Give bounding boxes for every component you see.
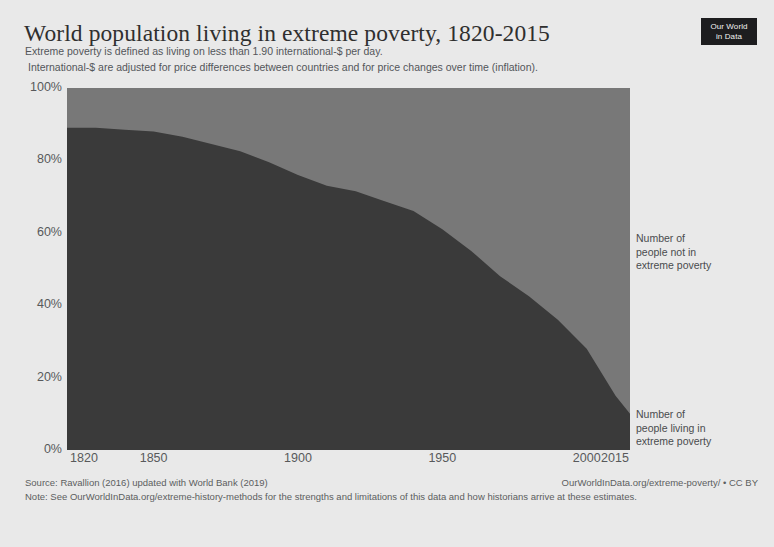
our-world-in-data-logo[interactable]: Our World in Data (701, 18, 757, 45)
x-axis-tick-1900: 1900 (284, 451, 312, 465)
y-axis-tick-80: 80% (14, 152, 62, 166)
annotation-line-2: people not in (636, 246, 756, 260)
logo-line-1: Our World (701, 22, 757, 32)
annotation-in-extreme-poverty: Number of people living in extreme pover… (636, 408, 756, 449)
source-text: Source: Ravallion (2016) updated with Wo… (25, 476, 268, 489)
stacked-area-chart[interactable] (67, 88, 630, 450)
chart-plot-area[interactable] (67, 88, 630, 450)
annotation-not-in-extreme-poverty: Number of people not in extreme poverty (636, 232, 756, 273)
chart-subtitle-line-1: Extreme poverty is defined as living on … (25, 44, 383, 58)
chart-subtitle-line-2: International-$ are adjusted for price d… (28, 60, 538, 74)
page-title: World population living in extreme pover… (24, 20, 550, 46)
x-axis: 182018501900195020002015 (0, 451, 774, 471)
attribution-text[interactable]: OurWorldInData.org/extreme-poverty/ • CC… (562, 476, 758, 489)
annotation-line-1: Number of (636, 408, 756, 422)
y-axis-tick-100: 100% (14, 80, 62, 94)
annotation-line-2: people living in (636, 422, 756, 436)
y-axis-tick-20: 20% (14, 370, 62, 384)
x-axis-tick-2015: 2015 (601, 451, 629, 465)
chart-page: World population living in extreme pover… (0, 0, 774, 547)
annotation-line-3: extreme poverty (636, 259, 756, 273)
y-axis-tick-60: 60% (14, 225, 62, 239)
x-axis-tick-2000: 2000 (573, 451, 601, 465)
logo-line-2: in Data (701, 32, 757, 42)
x-axis-tick-1820: 1820 (70, 451, 98, 465)
x-axis-tick-1850: 1850 (140, 451, 168, 465)
note-text: Note: See OurWorldInData.org/extreme-his… (25, 490, 735, 503)
y-axis-tick-40: 40% (14, 297, 62, 311)
x-axis-tick-1950: 1950 (428, 451, 456, 465)
annotation-line-1: Number of (636, 232, 756, 246)
annotation-line-3: extreme poverty (636, 435, 756, 449)
